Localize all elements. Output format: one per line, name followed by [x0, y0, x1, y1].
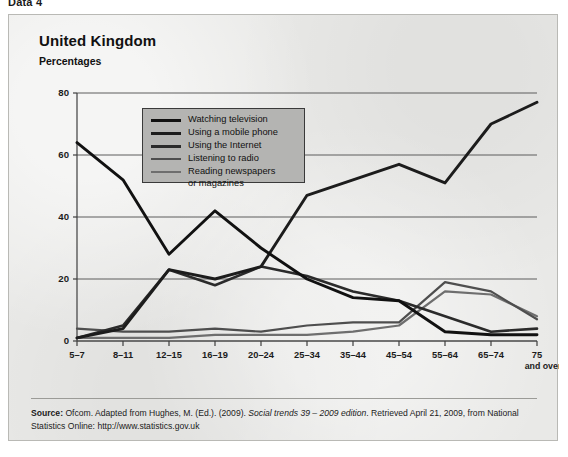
x-axis-tick-label: 8–11: [113, 350, 133, 360]
legend-item-label: Watching television: [188, 114, 268, 126]
legend-line-swatch: [149, 166, 182, 178]
y-axis-tick-label: 80: [58, 87, 69, 98]
x-axis-tick-label: 35–44: [340, 350, 367, 360]
legend-item-label: Listening to radio: [188, 153, 259, 165]
legend-item: Using a mobile phone: [149, 127, 298, 140]
source-label: Source:: [31, 408, 63, 418]
legend-item-label: Reading newspapers or magazines: [188, 166, 275, 189]
legend-item: Listening to radio: [149, 153, 298, 166]
legend-item-label: Using a mobile phone: [188, 127, 278, 139]
x-axis-tick-label: 5–7: [69, 350, 85, 360]
page-header-label: Data 4: [8, 0, 42, 8]
source-text-before: Ofcom. Adapted from Hughes, M. (Ed.). (2…: [63, 408, 248, 418]
legend-item-label: Using the Internet: [188, 140, 261, 152]
source-italic-title: Social trends 39 – 2009 edition: [248, 408, 366, 418]
x-axis-tick-label: 75: [532, 350, 542, 360]
x-axis-tick-label: 45–54: [386, 350, 413, 360]
x-axis-tick-label: 25–34: [294, 350, 321, 360]
x-axis-tick-label: 55–64: [432, 350, 459, 360]
y-axis-tick-label: 20: [58, 273, 69, 284]
x-axis-ticks: [77, 341, 537, 346]
figure-card: United Kingdom Percentages 020406080 5–7…: [8, 14, 558, 441]
legend-item: Reading newspapers or magazines: [149, 166, 298, 190]
y-axis-tick-label: 60: [58, 149, 69, 160]
legend-line-swatch: [149, 114, 182, 126]
x-axis-tick-label: 16–19: [202, 350, 228, 360]
legend-line-swatch: [149, 140, 182, 152]
y-axis-tick-labels: 020406080: [58, 87, 77, 346]
x-axis-tick-label: 20–24: [248, 350, 275, 360]
source-note: Source: Ofcom. Adapted from Hughes, M. (…: [31, 407, 543, 433]
x-axis-tick-sublabel: and over: [525, 361, 559, 371]
y-axis-tick-label: 0: [64, 335, 69, 346]
chart-legend: Watching televisionUsing a mobile phoneU…: [142, 108, 305, 183]
x-axis-tick-labels: 5–78–1112–1516–1920–2425–3435–4445–5455–…: [69, 350, 559, 371]
legend-item: Watching television: [149, 114, 298, 127]
legend-line-swatch: [149, 127, 182, 139]
y-axis-tick-label: 40: [58, 211, 69, 222]
x-axis-tick-label: 65–74: [478, 350, 505, 360]
legend-line-swatch: [149, 153, 182, 165]
plot-area: 020406080 5–78–1112–1516–1920–2425–3435–…: [9, 15, 559, 442]
line-chart-svg: 020406080 5–78–1112–1516–1920–2425–3435–…: [9, 15, 559, 442]
legend-item: Using the Internet: [149, 140, 298, 153]
x-axis-tick-label: 12–15: [156, 350, 182, 360]
source-divider: [31, 398, 537, 399]
